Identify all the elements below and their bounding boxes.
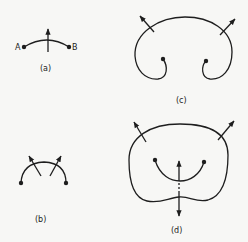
- endpoint-b-dot: [67, 45, 71, 49]
- endpoint-b-label: B: [72, 43, 78, 52]
- left-endpoint-dot: [19, 181, 23, 185]
- panel-d: (d): [129, 121, 234, 235]
- arc-curve: [21, 162, 66, 183]
- left-endpoint-dot: [153, 158, 157, 162]
- right-endpoint-dot: [204, 59, 208, 63]
- left-normal-arrow-icon: [29, 156, 41, 176]
- endpoint-a-dot: [22, 45, 26, 49]
- arc-curve: [24, 40, 69, 47]
- right-endpoint-dot: [202, 160, 206, 164]
- panel-c: (c): [135, 16, 235, 105]
- caption-a: (a): [40, 64, 51, 73]
- caption-c: (c): [176, 96, 187, 105]
- endpoint-a-label: A: [15, 43, 21, 52]
- panel-b: (b): [19, 156, 68, 224]
- panel-a: A B (a): [15, 29, 78, 73]
- right-normal-arrow-icon: [218, 121, 234, 140]
- diagram-canvas: A B (a) (b) (c) (d): [0, 0, 248, 242]
- caption-b: (b): [35, 215, 46, 224]
- caption-d: (d): [171, 226, 182, 235]
- right-endpoint-dot: [64, 181, 68, 185]
- right-normal-arrow-icon: [220, 19, 235, 35]
- left-endpoint-dot: [161, 57, 165, 61]
